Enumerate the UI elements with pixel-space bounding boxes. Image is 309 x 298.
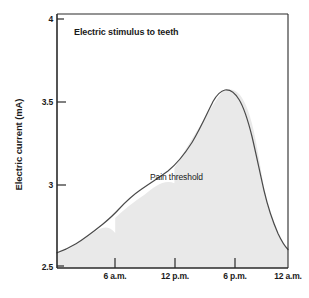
annotation-pain-threshold: Pain threshold [150, 172, 203, 182]
chart-figure: Electric current (mA) 4 3.5 3 2.5 6 a.m.… [0, 0, 309, 298]
chart-title: Electric stimulus to teeth [74, 27, 178, 37]
plot-canvas [0, 0, 309, 298]
